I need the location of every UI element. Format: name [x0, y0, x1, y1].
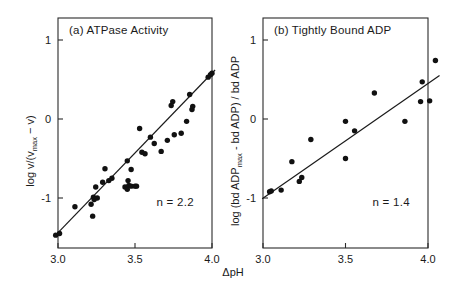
data-point [433, 58, 438, 63]
x-tick-label: 3.0 [255, 253, 270, 265]
panel-b: 3.03.54.0-101(b) Tightly Bound ADPn = 1.… [229, 18, 440, 265]
data-point [72, 204, 77, 209]
data-point [343, 119, 348, 124]
data-point [187, 92, 192, 97]
data-point [109, 176, 114, 181]
y-tick-label: -1 [246, 192, 256, 204]
data-point [102, 166, 107, 171]
x-axis-label: ΔpH [222, 266, 243, 278]
y-tick-label: -1 [41, 192, 51, 204]
panel-a: 3.03.54.0-101(a) ATPase Activityn = 2.2l… [24, 18, 220, 265]
x-tick-label: 3.5 [127, 253, 142, 265]
x-tick-label: 3.0 [50, 253, 65, 265]
fit-line [262, 76, 439, 199]
plot-frame [263, 18, 428, 248]
data-point [148, 134, 153, 139]
data-point [352, 128, 357, 133]
plot-frame [58, 18, 212, 248]
data-point [100, 180, 105, 185]
data-point [427, 98, 432, 103]
data-point [57, 231, 62, 236]
y-tick-label: 1 [250, 34, 256, 46]
data-point [418, 99, 423, 104]
data-point [402, 119, 407, 124]
data-point [137, 126, 142, 131]
x-tick-label: 3.5 [338, 253, 353, 265]
data-point [170, 99, 175, 104]
data-points [267, 58, 438, 195]
data-point [152, 141, 157, 146]
data-point [278, 187, 283, 192]
data-point [134, 183, 139, 188]
data-point [88, 202, 93, 207]
data-point [90, 213, 95, 218]
y-tick-label: 1 [45, 34, 51, 46]
figure-container: 3.03.54.0-101(a) ATPase Activityn = 2.2l… [0, 0, 455, 297]
data-point [95, 195, 100, 200]
x-tick-label: 4.0 [204, 253, 219, 265]
data-point [172, 132, 177, 137]
data-point [165, 138, 170, 143]
data-point [269, 188, 274, 193]
data-point [299, 175, 304, 180]
data-point [93, 184, 98, 189]
panel-title: (a) ATPase Activity [69, 24, 168, 36]
panel-title: (b) Tightly Bound ADP [274, 24, 391, 36]
data-point [128, 167, 133, 172]
data-point [158, 149, 163, 154]
data-point [179, 131, 184, 136]
y-axis-label: log v/(vmax − v) [24, 115, 39, 186]
y-tick-label: 0 [45, 113, 51, 125]
data-point [420, 79, 425, 84]
data-point [184, 119, 189, 124]
data-point [289, 159, 294, 164]
data-point [372, 90, 377, 95]
data-point [343, 156, 348, 161]
y-tick-label: 0 [250, 113, 256, 125]
data-point [125, 178, 130, 183]
data-point [125, 158, 130, 163]
data-point [190, 104, 195, 109]
y-axis-label: log (bd ADPmax - bd ADP) / bd ADP [229, 56, 244, 226]
x-tick-label: 4.0 [420, 253, 435, 265]
n-annotation: n = 2.2 [156, 196, 194, 208]
scatter-figure: 3.03.54.0-101(a) ATPase Activityn = 2.2l… [0, 0, 455, 297]
data-point [308, 137, 313, 142]
data-point [209, 70, 214, 75]
n-annotation: n = 1.4 [372, 196, 410, 208]
data-point [142, 151, 147, 156]
